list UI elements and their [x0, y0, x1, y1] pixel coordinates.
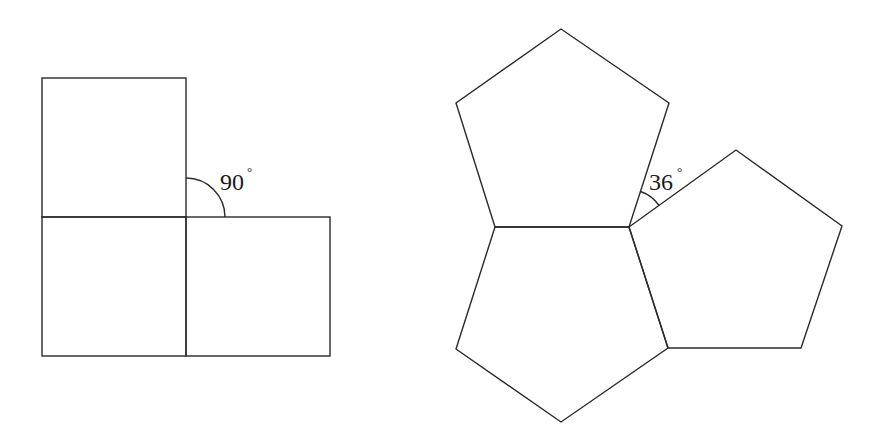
angle-label-36: 36: [649, 169, 673, 195]
square-bottom-left: [42, 217, 186, 356]
degree-symbol-36: °: [677, 164, 682, 179]
pentagons-figure: 36 °: [456, 29, 842, 422]
angle-label-90: 90: [220, 169, 244, 195]
squares-figure: 90 °: [42, 78, 330, 356]
square-bottom-right: [186, 217, 330, 356]
pentagon-top: [456, 29, 669, 227]
diagram-canvas: 90 ° 36 °: [0, 0, 882, 446]
degree-symbol-90: °: [247, 164, 252, 179]
square-top-left: [42, 78, 186, 217]
pentagon-bottom: [456, 227, 668, 422]
